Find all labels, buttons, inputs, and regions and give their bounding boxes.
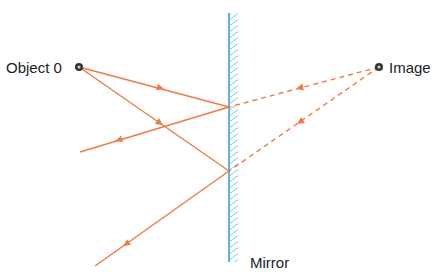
reflected-ray-2 xyxy=(95,171,229,266)
arrow-icon xyxy=(295,84,304,93)
arrow-icon xyxy=(114,136,123,145)
mirror-hatching xyxy=(230,13,238,262)
incident-ray-1 xyxy=(79,67,229,107)
image-label: Image xyxy=(389,59,431,76)
virtual-ray-1 xyxy=(229,67,379,107)
arrow-icon xyxy=(121,239,131,249)
arrow-icon xyxy=(156,84,165,93)
mirror-label: Mirror xyxy=(250,254,289,271)
image-point xyxy=(375,63,383,71)
incident-rays xyxy=(79,67,229,266)
mirror-reflection-diagram: Object 0 Image Mirror xyxy=(0,0,437,273)
object-point xyxy=(75,63,83,71)
arrowheads xyxy=(114,84,305,249)
object-label: Object 0 xyxy=(6,59,62,76)
incident-ray-2 xyxy=(79,67,229,171)
reflected-ray-1 xyxy=(80,107,229,152)
mirror xyxy=(229,13,238,262)
virtual-ray-2 xyxy=(229,67,379,171)
virtual-rays xyxy=(229,67,379,171)
